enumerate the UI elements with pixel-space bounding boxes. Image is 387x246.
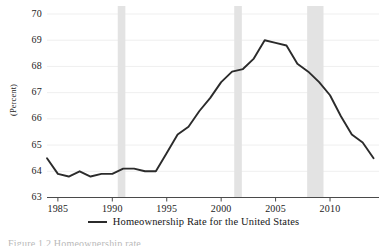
y-axis-tick-label: 66 (14, 112, 42, 123)
legend-entry-label: Homeownership Rate for the United States (113, 216, 300, 227)
y-axis-tick-label: 65 (14, 139, 42, 150)
recession-shading-bands (118, 6, 324, 198)
x-axis-ticks (58, 198, 330, 202)
y-axis-tick-label: 69 (14, 34, 42, 45)
x-axis-tick-label: 1990 (92, 203, 132, 214)
y-axis-tick-label: 67 (14, 86, 42, 97)
clipped-caption-text: Figure 1.2 Homeownership rate (8, 238, 228, 246)
chart-legend: Homeownership Rate for the United States (0, 216, 387, 227)
recession-band (234, 6, 242, 198)
chart-figure: (Percent) 7069686766656463 1985199019952… (0, 0, 387, 246)
legend-line-swatch-icon (88, 221, 107, 223)
data-series-group (47, 40, 374, 176)
data-line-homeownership-rate (47, 40, 374, 176)
y-axis-tick-label: 68 (14, 60, 42, 71)
x-axis-tick-label: 2005 (256, 203, 296, 214)
recession-band (307, 6, 323, 198)
y-axis-tick-label: 63 (14, 191, 42, 202)
y-axis-title: (Percent) (8, 65, 18, 135)
y-axis-tick-label: 70 (14, 8, 42, 19)
y-axis-tick-label: 64 (14, 165, 42, 176)
x-axis-tick-label: 2000 (201, 203, 241, 214)
x-axis-tick-label: 1985 (38, 203, 78, 214)
x-axis-tick-label: 1995 (147, 203, 187, 214)
x-axis-tick-label: 2010 (310, 203, 350, 214)
